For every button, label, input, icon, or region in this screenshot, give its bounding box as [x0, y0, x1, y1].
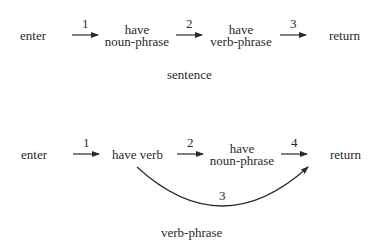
edge-label-1: 1 [82, 17, 89, 30]
edge-label-1: 1 [83, 136, 90, 149]
node-enter: enter [21, 148, 47, 161]
edge-label-2: 2 [186, 17, 193, 30]
node-have-noun-phrase: have noun-phrase [104, 24, 170, 48]
node-return: return [329, 29, 360, 42]
edge-label-2: 2 [187, 136, 194, 149]
node-enter: enter [20, 29, 46, 42]
edge-label-3: 3 [290, 17, 297, 30]
node-have-verb-phrase: have verb-phrase [208, 24, 274, 48]
caption-verb-phrase: verb-phrase [161, 226, 222, 239]
caption-sentence: sentence [167, 68, 212, 81]
edge-label-4: 4 [291, 136, 298, 149]
node-have-verb: have verb [112, 148, 163, 161]
diagram-arrows [0, 0, 381, 249]
edge-label-3: 3 [219, 189, 226, 202]
node-return: return [330, 148, 361, 161]
node-have-noun-phrase: have noun-phrase [208, 143, 276, 167]
